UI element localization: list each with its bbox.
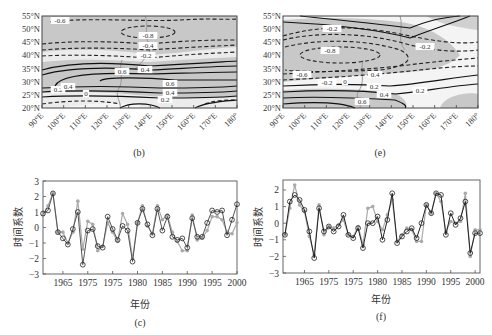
xtick-label: 1985 bbox=[153, 278, 172, 288]
series-gray-point bbox=[381, 228, 385, 232]
xlabel-f: 年份 bbox=[371, 293, 391, 305]
series-gray-point bbox=[230, 232, 234, 236]
xtick-label: 2000 bbox=[466, 277, 485, 287]
ytick-label: 3 bbox=[34, 177, 39, 187]
lon-tick-label: 150°E bbox=[153, 110, 175, 132]
contour-label: -0.2 bbox=[140, 52, 152, 60]
ytick-label: −3 bbox=[29, 270, 39, 280]
ytick-label: 2 bbox=[274, 185, 279, 195]
ytick-label: −2 bbox=[29, 254, 39, 264]
lat-tick-label: 30°N bbox=[263, 77, 281, 87]
lon-tick-label: 170°E bbox=[197, 110, 219, 132]
ytick-label: −2 bbox=[269, 252, 279, 262]
lon-tick-label: 140°E bbox=[132, 110, 154, 132]
series-gray-point bbox=[366, 206, 370, 210]
xtick-label: 1965 bbox=[295, 277, 314, 287]
xtick-label: 1980 bbox=[128, 278, 147, 288]
series-gray-point bbox=[161, 218, 165, 222]
lon-tick-label: 120°E bbox=[88, 110, 110, 132]
figure: -0.6-0.8-0.4-0.20.60.40.60.40.20.20.40 5… bbox=[0, 0, 492, 335]
contour-label: 0.2 bbox=[416, 87, 425, 95]
xtick-label: 1995 bbox=[203, 278, 222, 288]
series-gray-point bbox=[371, 205, 375, 209]
ytick-label: 0 bbox=[274, 219, 279, 229]
series-gray-point bbox=[210, 215, 214, 219]
xtick-label: 1975 bbox=[103, 278, 122, 288]
lon-tick-label: 140°E bbox=[373, 110, 395, 132]
xtick-label: 2000 bbox=[228, 278, 247, 288]
lon-tick-label: 170°E bbox=[438, 110, 460, 132]
xtick-label: 1990 bbox=[178, 278, 197, 288]
contour-label: 0.4 bbox=[64, 83, 73, 91]
series-gray-point bbox=[41, 213, 45, 217]
lat-tick-label: 50°N bbox=[22, 24, 40, 34]
caption-c: (c) bbox=[134, 317, 145, 329]
lat-tick-label: 35°N bbox=[263, 64, 281, 74]
ytick-label: −1 bbox=[29, 239, 39, 249]
timeseries-panel-c: 3210−1−2−3196519751975198019851990199520… bbox=[29, 177, 247, 289]
contour-label: 0 bbox=[343, 78, 347, 86]
series-gray-point bbox=[235, 221, 239, 225]
contour-label: -0.2 bbox=[326, 25, 338, 33]
lon-tick-label: 180° bbox=[222, 110, 240, 128]
lat-tick-label: 40°N bbox=[22, 50, 40, 60]
lon-tick-label: 110°E bbox=[308, 110, 330, 132]
contour-label: 0.2 bbox=[161, 96, 170, 104]
lat-tick-label: 55°N bbox=[22, 11, 40, 21]
map-panel-b: -0.6-0.8-0.4-0.20.60.40.60.40.20.20.40 5… bbox=[22, 11, 240, 133]
series-gray-point bbox=[126, 223, 130, 227]
ylabel-f: 时间系数 bbox=[252, 207, 264, 247]
lat-tick-label: 50°N bbox=[263, 24, 281, 34]
lon-tick-label: 110°E bbox=[67, 110, 89, 132]
lon-tick-label: 100°E bbox=[286, 110, 308, 132]
xtick-label: 1995 bbox=[441, 277, 460, 287]
contour-label: 0.4 bbox=[371, 71, 380, 79]
lat-tick-label: 25°N bbox=[263, 90, 281, 100]
lat-tick-label: 30°N bbox=[22, 77, 40, 87]
caption-b: (b) bbox=[133, 147, 145, 159]
xtick-label: 1965 bbox=[53, 278, 72, 288]
lon-tick-label: 90°E bbox=[26, 110, 45, 129]
caption-f: (f) bbox=[376, 311, 386, 323]
lon-tick-label: 120°E bbox=[329, 110, 351, 132]
xtick-label: 1975 bbox=[78, 278, 97, 288]
lat-tick-label: 55°N bbox=[263, 11, 281, 21]
ytick-label: 1 bbox=[274, 202, 279, 212]
contour-label: -0.8 bbox=[142, 32, 154, 40]
ytick-label: 2 bbox=[34, 192, 39, 202]
xlabel-c: 年份 bbox=[130, 298, 150, 310]
lon-tick-label: 180° bbox=[463, 110, 481, 128]
contour-label: 0.2 bbox=[370, 83, 379, 91]
contour-label: 0.6 bbox=[166, 80, 175, 88]
lon-tick-label: 130°E bbox=[110, 110, 132, 132]
series-gray-point bbox=[293, 183, 297, 187]
lon-tick-label: 100°E bbox=[45, 110, 67, 132]
series-gray-point bbox=[180, 249, 184, 253]
contour-label: -0.2 bbox=[321, 79, 333, 87]
xtick-label: 1975 bbox=[319, 277, 338, 287]
lon-tick-label: 160°E bbox=[416, 110, 438, 132]
contour-label: 0.6 bbox=[118, 68, 127, 76]
lat-tick-label: 45°N bbox=[263, 37, 281, 47]
contour-label: -0.6 bbox=[54, 17, 66, 25]
contour-label: 0.4 bbox=[141, 66, 150, 74]
ylabel-c: 时间系数 bbox=[12, 207, 24, 247]
xtick-label: 1985 bbox=[392, 277, 411, 287]
lat-tick-label: 45°N bbox=[22, 37, 40, 47]
ytick-label: −3 bbox=[269, 269, 279, 279]
caption-e: (e) bbox=[374, 147, 385, 159]
contour-label: 0 bbox=[84, 90, 88, 98]
lat-tick-label: 25°N bbox=[22, 90, 40, 100]
lat-tick-label: 35°N bbox=[22, 64, 40, 74]
series-gray-point bbox=[464, 191, 468, 195]
ytick-label: −1 bbox=[269, 235, 279, 245]
series-gray-point bbox=[96, 249, 100, 253]
lon-tick-label: 160°E bbox=[175, 110, 197, 132]
series-gray-point bbox=[61, 230, 65, 234]
series-gray-point bbox=[298, 203, 302, 207]
series-gray-point bbox=[91, 223, 95, 227]
contour-label: -0.4 bbox=[142, 42, 154, 50]
xtick-label: 1975 bbox=[344, 277, 363, 287]
series-gray-point bbox=[86, 220, 90, 224]
contour-label: -0.6 bbox=[296, 71, 308, 79]
